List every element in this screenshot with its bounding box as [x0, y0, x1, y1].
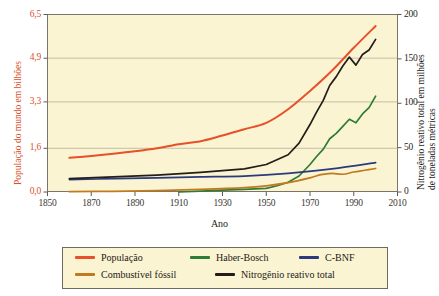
axis-tick-label: 0,0 — [7, 186, 41, 196]
axis-tick-label: 200 — [404, 9, 430, 19]
legend-item-combustivel-fossil[interactable]: Combustível fóssil — [75, 269, 176, 280]
legend-label-combustivel-fossil: Combustível fóssil — [101, 269, 176, 280]
y-axis-left-title: População do mundo em bilhões — [13, 61, 23, 185]
legend-label-nitrogenio-reativo-total: Nitrogênio reativo total — [241, 269, 335, 280]
y-axis-right-title-line1: Nitrogênio reativo total em milhões — [416, 54, 426, 190]
chart-figure: 0,01,63,34,96,5 050100150200 18501870189… — [0, 0, 439, 296]
tick-marks — [44, 15, 402, 197]
legend-item-nitrogenio-reativo-total[interactable]: Nitrogênio reativo total — [215, 269, 335, 280]
axis-tick-label: 1930 — [205, 198, 241, 208]
legend-swatch-nitrogenio-reativo-total — [215, 273, 235, 276]
axis-tick-label: 1850 — [30, 198, 66, 208]
axis-tick-label: 1870 — [73, 198, 109, 208]
axis-tick-label: 1970 — [292, 198, 328, 208]
legend-swatch-populacao — [75, 256, 95, 259]
axis-tick-label: 1890 — [117, 198, 153, 208]
x-axis-title: Ano — [0, 218, 439, 229]
legend-label-haber-bosch: Haber-Bosch — [216, 252, 269, 263]
legend-item-populacao[interactable]: População — [75, 252, 143, 263]
axis-tick-label: 2010 — [380, 198, 416, 208]
axis-tick-label: 6,5 — [7, 9, 41, 19]
axis-tick-label: 1910 — [161, 198, 197, 208]
y-axis-right-title-line2: de toneladas métricas — [427, 108, 437, 190]
legend-item-haber-bosch[interactable]: Haber-Bosch — [190, 252, 269, 263]
legend: População Haber-Bosch C-BNF Combustível … — [62, 247, 388, 289]
legend-swatch-haber-bosch — [190, 256, 210, 259]
legend-swatch-combustivel-fossil — [75, 273, 95, 276]
axis-tick-label: 1990 — [336, 198, 372, 208]
legend-label-c-bnf: C-BNF — [325, 252, 354, 263]
legend-swatch-c-bnf — [299, 256, 319, 259]
legend-label-populacao: População — [101, 252, 143, 263]
data-series-group — [69, 26, 375, 192]
axis-tick-label: 1950 — [248, 198, 284, 208]
legend-item-c-bnf[interactable]: C-BNF — [299, 252, 354, 263]
